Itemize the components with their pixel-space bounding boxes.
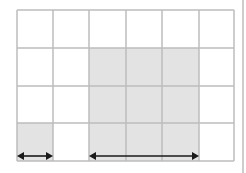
- shaded-regions: [17, 48, 199, 161]
- large-block: [89, 48, 199, 161]
- grid-diagram: [0, 0, 246, 173]
